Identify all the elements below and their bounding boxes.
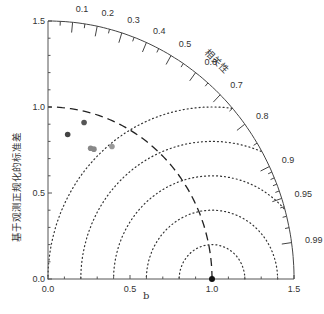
correlation-major-tick bbox=[282, 243, 292, 244]
plot-area: 0.00.51.01.50.00.51.01.50.10.20.30.40.50… bbox=[0, 0, 324, 314]
reference-point bbox=[209, 276, 215, 282]
correlation-major-tick bbox=[237, 124, 245, 130]
correlation-minor-tick bbox=[181, 64, 183, 68]
correlation-tick-label: 0.7 bbox=[230, 80, 243, 90]
correlation-major-tick bbox=[261, 167, 270, 171]
reference-std-dashed-arc bbox=[48, 107, 212, 279]
correlation-minor-tick bbox=[157, 49, 159, 53]
y-axis-title: 基于观测正规化的标准差 bbox=[9, 127, 23, 247]
correlation-minor-tick bbox=[84, 24, 85, 28]
correlation-major-tick bbox=[72, 22, 73, 32]
correlation-major-tick bbox=[213, 95, 220, 102]
correlation-minor-tick bbox=[205, 83, 208, 86]
correlation-major-tick bbox=[272, 198, 281, 201]
correlation-major-tick bbox=[166, 56, 171, 65]
correlation-tick-label: 0.5 bbox=[179, 39, 192, 49]
rms-arc bbox=[48, 107, 232, 279]
correlation-tick-label: 0.3 bbox=[127, 15, 140, 25]
correlation-minor-tick bbox=[229, 108, 232, 111]
y-tick-label: 0.5 bbox=[32, 188, 45, 198]
x-tick-label: 1.5 bbox=[288, 284, 301, 294]
correlation-tick-label: 0.1 bbox=[76, 4, 89, 14]
correlation-minor-tick bbox=[283, 216, 287, 217]
reference-std-arc bbox=[48, 107, 212, 279]
correlation-tick-label: 0.9 bbox=[282, 155, 295, 165]
correlation-minor-tick bbox=[275, 191, 279, 192]
correlation-minor-tick bbox=[268, 172, 272, 174]
correlation-minor-tick bbox=[108, 29, 109, 33]
correlation-major-tick bbox=[190, 73, 196, 81]
tick-labels: 0.00.51.01.50.00.51.01.50.10.20.30.40.50… bbox=[32, 4, 322, 294]
data-points bbox=[65, 120, 215, 282]
taylor-diagram: 0.00.51.01.50.00.51.01.50.10.20.30.40.50… bbox=[0, 0, 324, 314]
x-axis-title: b bbox=[143, 290, 149, 301]
correlation-tick-label: 0.99 bbox=[305, 235, 323, 245]
correlation-tick-label: 0.95 bbox=[295, 189, 313, 199]
correlation-major-tick bbox=[142, 43, 146, 52]
correlation-major-tick bbox=[95, 26, 97, 36]
correlation-minor-tick bbox=[273, 184, 277, 186]
model-point bbox=[109, 144, 115, 150]
correlation-minor-tick bbox=[285, 228, 289, 229]
correlation-tick-label: 0.8 bbox=[256, 111, 269, 121]
correlation-minor-tick bbox=[133, 37, 134, 41]
rms-arc bbox=[114, 176, 284, 279]
correlation-tick-label: 0.4 bbox=[153, 26, 166, 36]
x-tick-label: 0.5 bbox=[124, 284, 137, 294]
rms-arcs bbox=[48, 107, 284, 279]
correlation-major-tick bbox=[119, 33, 122, 43]
y-tick-label: 0.0 bbox=[32, 274, 45, 284]
correlation-tick-label: 0.2 bbox=[101, 8, 114, 18]
correlation-minor-tick bbox=[254, 143, 257, 145]
x-tick-label: 1.0 bbox=[206, 284, 219, 294]
model-point bbox=[91, 146, 97, 152]
x-tick-label: 0.0 bbox=[42, 284, 55, 294]
correlation-minor-tick bbox=[271, 178, 275, 180]
rms-arc bbox=[81, 141, 261, 279]
model-point bbox=[81, 120, 87, 126]
y-tick-label: 1.5 bbox=[32, 16, 45, 26]
model-point bbox=[65, 132, 71, 138]
y-tick-label: 1.0 bbox=[32, 102, 45, 112]
